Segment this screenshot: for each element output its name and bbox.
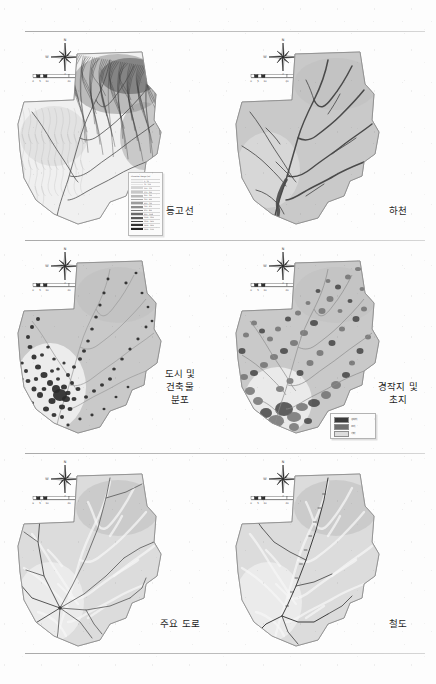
legend-swatch [131, 195, 143, 197]
legend-label: 650 - 800 [144, 209, 152, 212]
map-figure-river [232, 50, 390, 228]
legend-swatch [334, 417, 349, 424]
legend-swatch [131, 180, 143, 182]
map-label-line: 도시 및 [148, 367, 212, 380]
map-row-2: NESW05102030km도시 및건축물분포NESW05102030km경작지… [0, 241, 436, 452]
svg-text:N: N [282, 38, 285, 42]
legend-title: Elevation Range (m) [131, 175, 160, 178]
map-label-farmland: 경작지 및초지 [366, 380, 430, 406]
map-label-line: 경작지 및 [366, 380, 430, 393]
map-label-urban: 도시 및건축물분포 [148, 367, 212, 406]
legend-label: 400 - 500 [144, 202, 152, 205]
legend-swatch [131, 187, 143, 189]
map-panel-contour: NESW05102030km등고선Elevation Range (m)0 - … [0, 32, 218, 239]
map-row-1: NESW05102030km등고선Elevation Range (m)0 - … [0, 32, 436, 239]
legend-label: 초지 [351, 424, 355, 430]
legend-label: 1200 - 1400 [144, 220, 154, 223]
map-label-line: 주요 도로 [148, 617, 212, 630]
svg-text:N: N [64, 38, 67, 42]
map-label-line: 초지 [366, 393, 430, 406]
map-label-river: 하천 [366, 204, 430, 217]
legend-swatch [334, 424, 349, 431]
legend-label: 1400 - 1600 [144, 224, 154, 227]
legend-label: 200 - 300 [144, 194, 152, 197]
legend-row: 경작지 [334, 417, 372, 423]
svg-text:N: N [282, 460, 285, 464]
divider-bottom [25, 653, 425, 654]
elevation-legend: Elevation Range (m)0 - 5050 - 100100 - 1… [128, 172, 163, 236]
legend-label: 1000 - 1200 [144, 216, 154, 219]
svg-text:N: N [64, 247, 67, 251]
map-label-line: 건축물 [148, 380, 212, 393]
legend-label: 500 - 650 [144, 205, 152, 208]
legend-label: 150 - 200 [144, 191, 152, 194]
map-panel-railway: NESW05102030km철도 [218, 454, 436, 652]
legend-swatch [131, 184, 143, 186]
legend-label: 50 - 100 [144, 183, 151, 186]
legend-label: 경작지 [351, 417, 357, 423]
legend-row: 기타 [334, 431, 372, 437]
map-panel-farmland: NESW05102030km경작지 및초지경작지초지기타 [218, 241, 436, 452]
map-panel-urban: NESW05102030km도시 및건축물분포 [0, 241, 218, 452]
legend-swatch [131, 217, 143, 219]
legend-label: 기타 [351, 431, 355, 437]
map-label-railway: 철도 [366, 617, 430, 630]
map-label-line: 분포 [148, 393, 212, 406]
legend-swatch [131, 213, 143, 215]
legend-swatch [131, 202, 143, 204]
legend-label: 0 - 50 [144, 180, 149, 183]
legend-rows: 0 - 5050 - 100100 - 150150 - 200200 - 30… [131, 179, 160, 231]
legend-swatch [131, 224, 143, 226]
legend-swatch [131, 221, 143, 223]
map-figure-urban [14, 259, 172, 437]
map-label-line: 철도 [366, 617, 430, 630]
map-panel-road: NESW05102030km주요 도로 [0, 454, 218, 652]
map-row-3: NESW05102030km주요 도로NESW05102030km철도 [0, 454, 436, 652]
legend-label: 1600 - 1900 [144, 228, 154, 231]
legend-label: 800 - 1000 [144, 213, 153, 216]
map-figure-farmland [232, 259, 390, 437]
legend-swatch [131, 210, 143, 212]
landcover-legend: 경작지초지기타 [330, 413, 376, 439]
legend-label: 100 - 150 [144, 187, 152, 190]
legend-swatch [131, 191, 143, 193]
legend-row: 초지 [334, 424, 372, 430]
svg-text:N: N [282, 247, 285, 251]
map-label-road: 주요 도로 [148, 617, 212, 630]
legend-swatch [334, 431, 349, 438]
legend-swatch [131, 228, 143, 230]
legend-swatch [131, 199, 143, 201]
document-page: NESW05102030km등고선Elevation Range (m)0 - … [0, 0, 436, 684]
map-label-line: 하천 [366, 204, 430, 217]
legend-label: 300 - 400 [144, 198, 152, 201]
legend-swatch [131, 206, 143, 208]
svg-text:N: N [64, 460, 67, 464]
legend-row: 1600 - 1900 [131, 227, 160, 231]
map-panel-river: NESW05102030km하천 [218, 32, 436, 239]
